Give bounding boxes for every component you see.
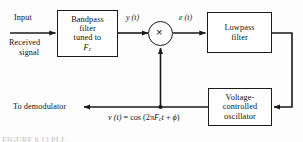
- equation-vco-output: v (t) = cos (2πFct + ϕ): [108, 113, 180, 122]
- signal-label-y-of-t: y (t): [126, 13, 139, 22]
- bandpass-line-1: Bandpass: [71, 15, 104, 24]
- label-to-demodulator: To demodulator: [13, 102, 66, 111]
- vco-line-1: Voltage-: [226, 93, 255, 102]
- bandpass-line-2: filter: [79, 24, 96, 33]
- lowpass-line-2: filter: [231, 33, 248, 42]
- bandpass-carrier-subscript: c: [89, 46, 92, 52]
- label-received-signal-line-1: Received: [9, 38, 40, 47]
- label-received-signal-line-2: signal: [19, 48, 39, 57]
- block-bandpass-filter: Bandpass filter tuned to Fc: [57, 10, 118, 57]
- pll-block-diagram: Bandpass filter tuned to Fc × Lowpass fi…: [0, 0, 303, 142]
- figure-caption: FIGURE 6.13 PLL: [2, 136, 66, 142]
- wire-junction-dot: [158, 105, 162, 109]
- label-input: Input: [14, 13, 32, 22]
- equation-open-paren: (2π: [141, 113, 154, 122]
- block-voltage-controlled-oscillator: Voltage- controlled oscillator: [208, 88, 272, 126]
- vco-line-2: controlled: [223, 102, 258, 111]
- equation-equals: =: [121, 113, 130, 122]
- equation-close-paren: ): [177, 113, 180, 122]
- block-lowpass-filter: Lowpass filter: [207, 12, 272, 53]
- equation-lhs: v (t): [108, 113, 121, 122]
- lowpass-line-1: Lowpass: [224, 23, 254, 32]
- equation-cos: cos: [130, 113, 141, 122]
- signal-label-e-of-t: e (t): [179, 13, 192, 22]
- multiply-icon: ×: [156, 27, 162, 38]
- equation-plus: +: [164, 113, 173, 122]
- vco-line-3: oscillator: [224, 112, 256, 121]
- bandpass-line-3: tuned to: [74, 33, 102, 42]
- wire-lowpass-to-vco: [272, 33, 292, 107]
